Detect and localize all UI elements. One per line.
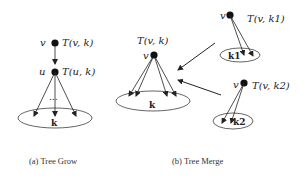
subtree-k1-node-name: v (220, 10, 226, 21)
node-u-tree-label: T(u, k) (62, 66, 95, 77)
subtree-k1-label: T(v, k1) (247, 13, 285, 24)
merge-arrow-from-k1 (178, 43, 215, 70)
merge-arrow-from-k2 (178, 80, 221, 95)
caption-tree-grow: (a) Tree Grow (29, 156, 78, 166)
subtree-k2: v T(v, k2) k2 (213, 79, 290, 129)
node-u-name: u (39, 66, 45, 77)
node-v-name: v (40, 37, 46, 48)
tree-grow-panel: v T(v, k) u T(u, k) ... k (a) Tree Grow (18, 37, 95, 166)
merged-tree-root-node (150, 51, 157, 58)
edge (136, 55, 154, 96)
tree-merge-panel: T(v, k) v k v T(v, k1) k1 v (116, 10, 290, 166)
merged-keyword-set-label: k (149, 100, 156, 110)
subtree-k1-root-node (226, 11, 233, 18)
node-v-tree-label: T(v, k) (62, 37, 93, 48)
edge (230, 15, 244, 55)
merged-tree-node-name: v (143, 50, 149, 61)
node-v (51, 39, 58, 46)
merged-tree: T(v, k) v k (116, 35, 190, 111)
subtree-k1-set-label: k1 (228, 51, 241, 61)
subtree-k1: v T(v, k1) k1 (220, 10, 285, 62)
edge (129, 55, 154, 96)
subtree-k2-set-label: k2 (233, 117, 246, 127)
subtree-k2-node-name: v (233, 79, 239, 90)
diagram-canvas: v T(v, k) u T(u, k) ... k (a) Tree Grow … (0, 0, 306, 180)
ellipsis-dots: ... (49, 92, 58, 102)
caption-tree-merge: (b) Tree Merge (172, 156, 224, 166)
subtree-k2-label: T(v, k2) (252, 80, 290, 91)
keyword-set-label: k (51, 118, 58, 128)
merged-tree-label: T(v, k) (137, 35, 168, 46)
